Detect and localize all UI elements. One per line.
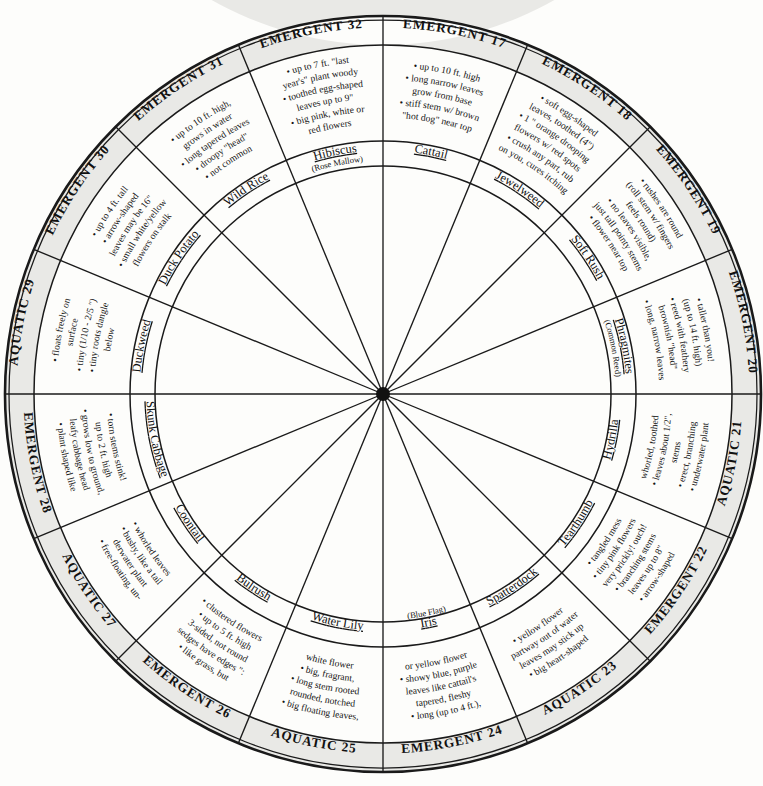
wheel-svg: EMERGENT 17• up to 10 ft. high• long nar… — [0, 0, 763, 786]
wheel-hub — [376, 387, 390, 401]
plant-identification-wheel: EMERGENT 17• up to 10 ft. high• long nar… — [0, 0, 763, 786]
